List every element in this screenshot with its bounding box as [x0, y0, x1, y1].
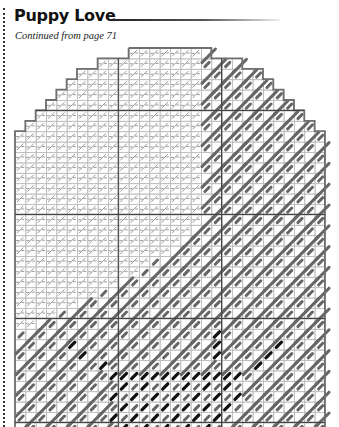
stitch-chart [0, 0, 339, 427]
